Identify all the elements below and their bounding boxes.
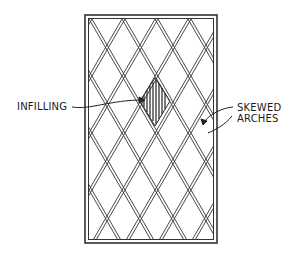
skewed-arches-label-line2: ARCHES	[237, 113, 281, 124]
lattice-diagram	[0, 0, 301, 257]
infilling-hatch	[140, 78, 170, 126]
infilling-label: INFILLING	[17, 101, 67, 112]
skewed-arches-label: SKEWED ARCHES	[237, 102, 281, 124]
skewed-arches-label-line1: SKEWED	[237, 102, 281, 113]
